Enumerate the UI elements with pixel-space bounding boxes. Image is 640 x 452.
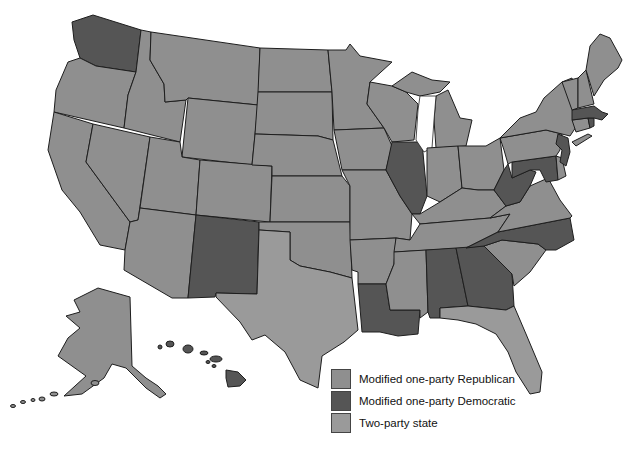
state-wyoming bbox=[182, 98, 258, 165]
legend-label-democratic: Modified one-party Democratic bbox=[359, 395, 516, 407]
state-alaska bbox=[58, 288, 166, 398]
state-north-dakota bbox=[258, 48, 332, 92]
state-new-mexico bbox=[188, 215, 259, 298]
state-arizona bbox=[124, 208, 196, 298]
lake-michigan bbox=[416, 96, 436, 152]
legend-label-republican: Modified one-party Republican bbox=[359, 373, 515, 385]
state-ohio bbox=[458, 138, 504, 190]
state-colorado bbox=[196, 160, 272, 222]
legend-swatch-democratic bbox=[331, 391, 351, 411]
state-hawaii bbox=[158, 341, 246, 387]
legend-swatch-republican bbox=[331, 369, 351, 389]
state-montana bbox=[150, 32, 260, 105]
state-kansas bbox=[270, 176, 350, 222]
state-iowa bbox=[334, 128, 392, 170]
legend-item-republican: Modified one-party Republican bbox=[331, 368, 516, 389]
legend-item-two-party: Two-party state bbox=[331, 412, 516, 433]
legend-label-two-party: Two-party state bbox=[359, 417, 438, 429]
state-michigan-lower bbox=[434, 90, 472, 148]
us-party-map bbox=[0, 0, 640, 452]
legend-item-democratic: Modified one-party Democratic bbox=[331, 390, 516, 411]
legend: Modified one-party Republican Modified o… bbox=[331, 368, 516, 434]
state-maine bbox=[586, 34, 622, 96]
legend-swatch-two-party bbox=[331, 413, 351, 433]
state-south-dakota bbox=[255, 92, 333, 140]
long-island bbox=[572, 134, 592, 146]
